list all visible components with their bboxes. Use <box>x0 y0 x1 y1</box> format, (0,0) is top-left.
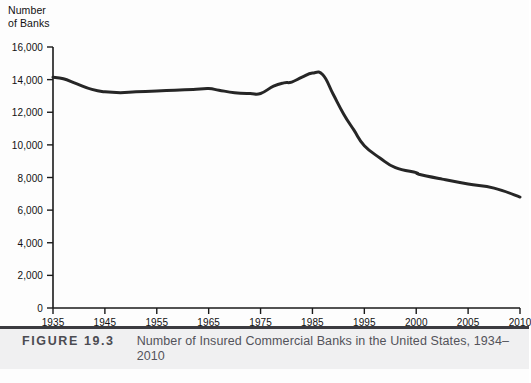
y-axis-tick-label: 6,000 <box>0 205 43 216</box>
y-axis-tick-label: 8,000 <box>0 172 43 183</box>
page-bleed-area <box>0 371 529 383</box>
caption-row: FIGURE 19.3 Number of Insured Commercial… <box>22 334 519 364</box>
figure-number-label: FIGURE 19.3 <box>22 334 115 348</box>
y-axis-tick-label: 2,000 <box>0 270 43 281</box>
y-axis-tick-label: 14,000 <box>0 74 43 85</box>
y-axis-tick-label: 10,000 <box>0 139 43 150</box>
y-axis-tick-label: 12,000 <box>0 107 43 118</box>
chart-plot-area: Numberof Banks 02,0004,0006,0008,00010,0… <box>0 0 529 322</box>
line-chart-svg <box>0 0 529 322</box>
y-axis-ticks <box>47 47 53 308</box>
chart-axes <box>53 47 520 308</box>
y-axis-tick-label: 4,000 <box>0 237 43 248</box>
y-axis-tick-label: 0 <box>0 303 43 314</box>
data-series-line <box>53 72 520 197</box>
x-axis-ticks <box>53 308 520 314</box>
y-axis-tick-label: 16,000 <box>0 42 43 53</box>
figure-caption-text: Number of Insured Commercial Banks in th… <box>137 334 519 364</box>
